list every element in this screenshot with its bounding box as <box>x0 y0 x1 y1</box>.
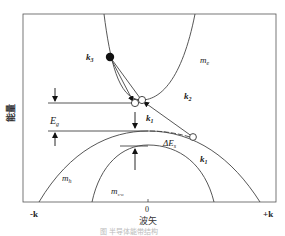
label-k3: k3 <box>86 52 94 63</box>
label-k2: k2 <box>184 91 192 102</box>
label-mh: mh <box>62 173 72 184</box>
k1-hole-circle-right <box>138 96 145 103</box>
y-axis-title: 能量 <box>5 104 16 122</box>
valence-dashed-link <box>150 131 190 137</box>
x-tick-zero: 0 <box>145 205 149 214</box>
band-structure-diagram: k3 me k2 k1 Eg ΔEs k1 mh ms-o -k 0 +k 波矢… <box>0 0 285 236</box>
label-eg: Eg <box>49 115 59 127</box>
label-mso: ms-o <box>111 186 124 197</box>
plot-frame <box>23 14 276 202</box>
k3-electron-dot <box>106 53 114 61</box>
conduction-band-curve <box>104 14 195 100</box>
label-me: me <box>200 55 210 66</box>
label-delta-es: ΔEs <box>162 138 177 149</box>
x-tick-plus-k: +k <box>263 209 273 219</box>
k1-hole-circle-left <box>131 99 138 106</box>
x-tick-minus-k: -k <box>30 209 38 219</box>
x-axis-title: 波矢 <box>139 215 157 226</box>
label-k1-center: k1 <box>146 113 154 124</box>
k3-transition-line-a <box>110 57 133 101</box>
figure-caption: 图 半导体能带结构 <box>100 227 158 236</box>
k3-transition-line-b <box>110 57 140 98</box>
heavy-hole-band-curve <box>39 131 260 202</box>
label-k1-valence: k1 <box>200 154 208 165</box>
k1-valence-hole-circle <box>190 134 197 141</box>
